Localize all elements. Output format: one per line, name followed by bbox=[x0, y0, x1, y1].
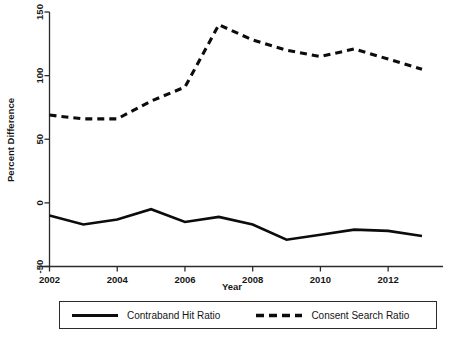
y-axis-title: Percent Difference bbox=[5, 98, 16, 182]
y-tick-label: 150 bbox=[34, 4, 45, 20]
chart-plot-area: -50050100150 Percent Difference 20022004… bbox=[0, 0, 449, 292]
x-axis-title: Year bbox=[222, 281, 242, 292]
x-tick-label: 2012 bbox=[378, 274, 399, 285]
x-tick-label: 2002 bbox=[39, 274, 60, 285]
data-series-group bbox=[50, 25, 423, 240]
legend-key-solid-line-icon bbox=[72, 310, 118, 321]
line-chart-svg: -50050100150 Percent Difference 20022004… bbox=[0, 0, 449, 292]
chart-legend: Contraband Hit Ratio Consent Search Rati… bbox=[59, 301, 437, 329]
legend-label-consent-search-ratio: Consent Search Ratio bbox=[311, 310, 409, 321]
series-line-contraband-hit-ratio bbox=[50, 209, 423, 240]
x-tick-label: 2004 bbox=[107, 274, 129, 285]
y-tick-label: 50 bbox=[34, 134, 45, 145]
y-axis: -50050100150 Percent Difference bbox=[5, 4, 50, 273]
y-axis-ticks bbox=[45, 12, 50, 267]
series-line-consent-search-ratio bbox=[50, 25, 423, 119]
y-axis-tick-labels: -50050100150 bbox=[34, 4, 45, 273]
x-tick-label: 2008 bbox=[242, 274, 263, 285]
y-tick-label: 0 bbox=[34, 200, 45, 205]
legend-label-contraband-hit-ratio: Contraband Hit Ratio bbox=[127, 310, 220, 321]
chart-figure: -50050100150 Percent Difference 20022004… bbox=[0, 0, 449, 339]
legend-entry-contraband-hit-ratio: Contraband Hit Ratio bbox=[72, 310, 220, 321]
legend-entry-consent-search-ratio: Consent Search Ratio bbox=[256, 310, 409, 321]
legend-key-dashed-line-icon bbox=[256, 310, 302, 321]
x-tick-label: 2010 bbox=[310, 274, 331, 285]
legend-row: Contraband Hit Ratio Consent Search Rati… bbox=[60, 302, 436, 328]
x-tick-label: 2006 bbox=[174, 274, 195, 285]
x-axis-tick-labels: 200220042006200820102012 bbox=[39, 274, 399, 285]
x-axis: 200220042006200820102012 Year bbox=[38, 267, 443, 293]
y-tick-label: 100 bbox=[34, 68, 45, 84]
x-axis-ticks bbox=[50, 267, 389, 272]
